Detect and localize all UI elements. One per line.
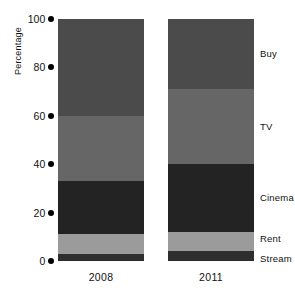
bar-segment-cinema <box>58 181 144 234</box>
bar-segment-rent <box>58 234 144 253</box>
bar-segment-rent <box>168 232 254 251</box>
x-tick-label-2011: 2011 <box>168 271 254 283</box>
series-label-rent: Rent <box>260 234 281 244</box>
bar-segment-tv <box>168 89 254 164</box>
series-label-stream: Stream <box>260 254 292 264</box>
bar-segment-buy <box>58 19 144 116</box>
series-label-cinema: Cinema <box>260 193 294 203</box>
plot-area <box>0 0 295 296</box>
bar-segment-cinema <box>168 164 254 232</box>
bar-2011 <box>168 19 254 261</box>
bar-segment-buy <box>168 19 254 89</box>
bar-segment-tv <box>58 116 144 181</box>
x-tick-label-2008: 2008 <box>58 271 144 283</box>
series-label-buy: Buy <box>260 49 277 59</box>
series-label-tv: TV <box>260 122 273 132</box>
bar-2008 <box>58 19 144 261</box>
bar-segment-stream <box>58 254 144 261</box>
bar-segment-stream <box>168 251 254 261</box>
stacked-bar-chart: Percentage 100806040200 20082011 BuyTVCi… <box>0 0 295 296</box>
